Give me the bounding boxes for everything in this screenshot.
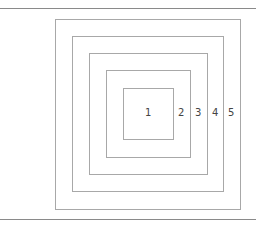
top-rule	[0, 8, 256, 9]
label-2: 2	[178, 108, 184, 118]
label-5: 5	[228, 108, 234, 118]
label-4: 4	[212, 108, 218, 118]
label-3: 3	[195, 108, 201, 118]
bottom-rule	[0, 219, 256, 220]
label-1: 1	[145, 108, 151, 118]
